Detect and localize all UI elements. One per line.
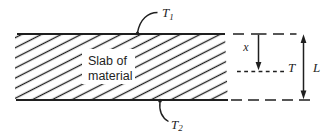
thickness-l-label: L (312, 60, 320, 75)
t2-leader-line (160, 102, 169, 122)
t1-leader-line (138, 13, 158, 33)
t1-label: T1 (162, 5, 174, 22)
x-arrowhead-down (256, 62, 262, 70)
heat-conduction-slab-figure: Slab of material T1 T2 x T L (0, 0, 333, 137)
x-dimension-arrow (256, 35, 262, 71)
slab-diagram-canvas: Slab of material T1 T2 x T L (0, 0, 333, 137)
l-dimension-arrow (301, 34, 307, 99)
t2-label: T2 (171, 117, 183, 134)
l-arrowhead-down (301, 91, 307, 100)
x-label: x (242, 40, 249, 54)
temperature-t-label: T (288, 60, 296, 75)
t1-anchor-dot (136, 31, 139, 34)
l-arrowhead-up (301, 34, 307, 43)
slab-label-line1: Slab of (88, 54, 127, 68)
slab-label-line2: material (88, 69, 132, 83)
